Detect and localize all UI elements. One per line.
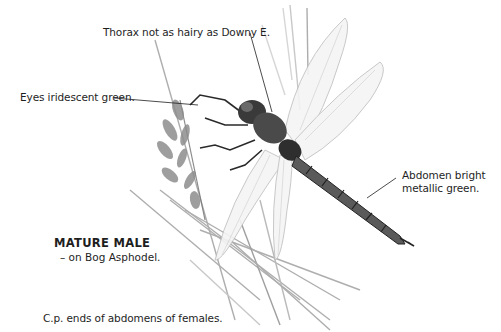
dragonfly-illustration — [0, 0, 501, 332]
footnote: C.p. ends of abdomens of females. — [43, 312, 223, 325]
caption-subtitle: – on Bog Asphodel. — [60, 251, 160, 263]
annotation-eyes: Eyes iridescent green. — [20, 91, 135, 104]
wings — [215, 18, 383, 260]
bog-asphodel — [154, 98, 205, 220]
annotation-abdomen-line1: Abdomen bright — [402, 169, 486, 182]
caption-title: MATURE MALE — [54, 236, 150, 250]
annotation-thorax: Thorax not as hairy as Downy E. — [103, 26, 270, 39]
annotation-abdomen-line2: metallic green. — [402, 182, 479, 195]
